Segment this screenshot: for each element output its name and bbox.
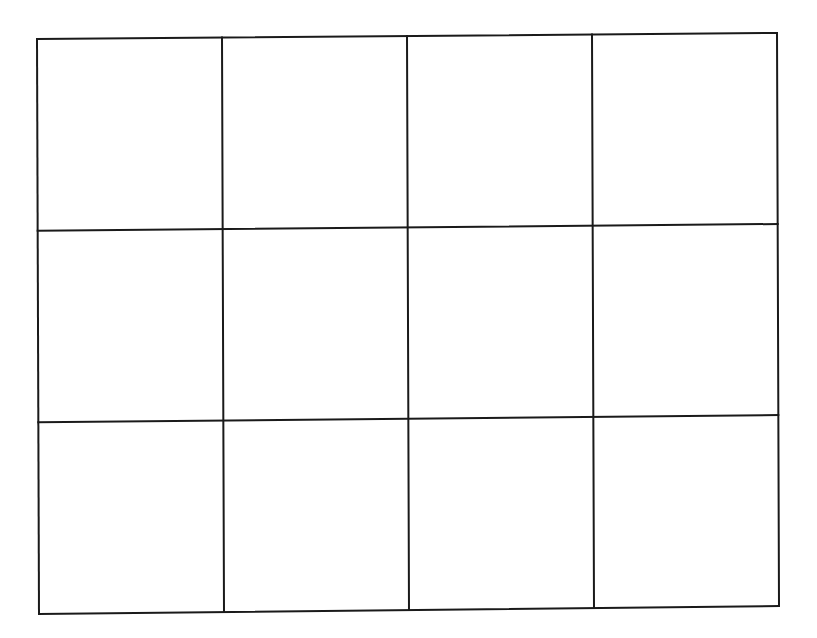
grid-cell-r1-c2 (222, 36, 408, 229)
grid-cell-r1-c3 (407, 35, 593, 228)
grid-cell-r3-c2 (223, 419, 409, 612)
grid-cell-r2-c4 (593, 224, 779, 417)
grid-cell-r3-c4 (593, 415, 779, 608)
grid-cell-r2-c2 (223, 227, 409, 420)
grid-cell-r1-c4 (592, 33, 778, 226)
blank-grid (0, 0, 817, 638)
grid-cell-r2-c3 (408, 226, 594, 419)
grid-cell-r2-c1 (38, 229, 224, 422)
grid-cell-r1-c1 (37, 38, 223, 231)
grid-cell-r3-c1 (38, 421, 224, 615)
grid-cell-r3-c3 (408, 417, 594, 610)
